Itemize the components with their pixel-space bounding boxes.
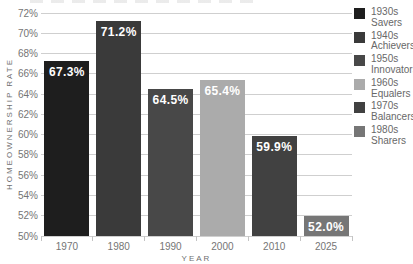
bar-1970: 67.3% xyxy=(44,61,89,236)
legend-name: Equalers xyxy=(371,89,410,100)
x-axis-tick xyxy=(352,236,353,241)
x-axis-tick xyxy=(196,236,197,241)
x-tick-label-2025: 2025 xyxy=(300,241,352,253)
legend-name: Savers xyxy=(371,18,402,29)
x-tick-label-1970: 1970 xyxy=(41,241,93,253)
gridline xyxy=(41,13,352,14)
legend-swatch xyxy=(354,55,365,66)
bar-2000: 65.4% xyxy=(200,80,245,236)
plot-area: 67.3%71.2%64.5%65.4%59.9%52.0% xyxy=(41,13,352,236)
y-tick-label: 50% xyxy=(0,231,38,242)
chart: 67.3%71.2%64.5%65.4%59.9%52.0% HOMEOWNER… xyxy=(0,0,413,264)
y-tick-label: 72% xyxy=(0,8,38,19)
bar-value-label: 65.4% xyxy=(200,80,245,98)
legend-swatch xyxy=(354,102,365,113)
bar-1980: 71.2% xyxy=(96,21,141,236)
bar-value-label: 71.2% xyxy=(96,21,141,39)
legend-label: 1980sSharers xyxy=(371,125,406,147)
y-tick-label: 66% xyxy=(0,68,38,79)
y-tick-label: 62% xyxy=(0,109,38,120)
legend-name: Balancers xyxy=(371,112,413,123)
legend-item-1940s: 1940sAchievers xyxy=(354,31,413,53)
bar-value-label: 64.5% xyxy=(148,89,193,107)
cropped-title-remnant xyxy=(30,0,260,3)
x-axis-title: YEAR xyxy=(41,254,352,263)
legend-name: Innovators xyxy=(371,65,413,76)
x-tick-label-1980: 1980 xyxy=(93,241,145,253)
legend-swatch xyxy=(354,8,365,19)
y-tick-label: 58% xyxy=(0,149,38,160)
legend-item-1950s: 1950sInnovators xyxy=(354,54,413,76)
bar-value-label: 52.0% xyxy=(304,216,349,234)
y-tick-label: 60% xyxy=(0,129,38,140)
legend-label: 1960sEqualers xyxy=(371,78,410,100)
y-tick-label: 64% xyxy=(0,89,38,100)
y-tick-label: 52% xyxy=(0,210,38,221)
x-axis-tick xyxy=(248,236,249,241)
gridline xyxy=(41,33,352,34)
legend-label: 1940sAchievers xyxy=(371,31,413,53)
y-tick-label: 68% xyxy=(0,48,38,59)
bar-value-label: 67.3% xyxy=(44,61,89,79)
x-axis-tick xyxy=(41,236,42,241)
x-tick-label-2000: 2000 xyxy=(197,241,249,253)
x-axis-tick xyxy=(144,236,145,241)
x-axis-tick xyxy=(92,236,93,241)
legend-swatch xyxy=(354,126,365,137)
legend-item-1930s: 1930sSavers xyxy=(354,7,413,29)
legend-item-1960s: 1960sEqualers xyxy=(354,78,413,100)
gridline xyxy=(41,53,352,54)
legend-decade: 1960s xyxy=(371,78,410,89)
x-tick-label-2010: 2010 xyxy=(248,241,300,253)
legend-name: Achievers xyxy=(371,41,413,52)
legend-item-1970s: 1970sBalancers xyxy=(354,101,413,123)
legend-swatch xyxy=(354,32,365,43)
bar-value-label: 59.9% xyxy=(252,136,297,154)
legend: 1930sSavers1940sAchievers1950sInnovators… xyxy=(354,7,413,147)
y-tick-label: 56% xyxy=(0,170,38,181)
bar-1990: 64.5% xyxy=(148,89,193,236)
bar-2025: 52.0% xyxy=(304,216,349,236)
legend-swatch xyxy=(354,79,365,90)
legend-label: 1970sBalancers xyxy=(371,101,413,123)
y-tick-label: 54% xyxy=(0,190,38,201)
bar-2010: 59.9% xyxy=(252,136,297,236)
legend-label: 1930sSavers xyxy=(371,7,402,29)
legend-name: Sharers xyxy=(371,136,406,147)
x-axis-tick xyxy=(300,236,301,241)
y-tick-label: 70% xyxy=(0,28,38,39)
legend-item-1980s: 1980sSharers xyxy=(354,125,413,147)
x-tick-label-1990: 1990 xyxy=(145,241,197,253)
legend-label: 1950sInnovators xyxy=(371,54,413,76)
